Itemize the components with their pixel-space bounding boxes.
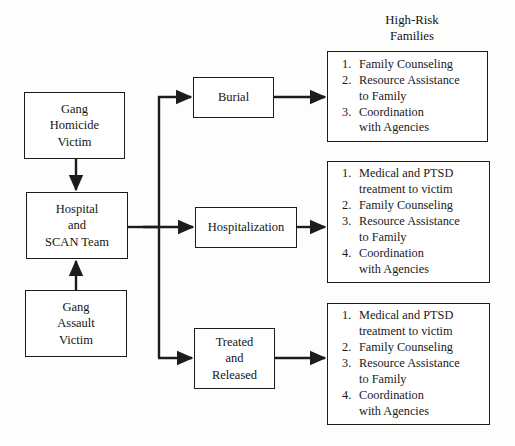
item-line-2: with Agencies (359, 120, 479, 136)
node-treated-and-released[interactable]: Treated and Released (194, 328, 275, 389)
node-line-1: Gang (25, 101, 124, 118)
item-text: Coordination with Agencies (359, 246, 481, 278)
item-number: 2. (342, 73, 359, 89)
item-text: Family Counseling (359, 198, 481, 214)
service-items: 1. Medical and PTSD treatment to victim … (342, 308, 481, 420)
caption-line-2: Families (352, 28, 472, 44)
node-line-3: Victim (25, 134, 124, 151)
item-number: 3. (342, 356, 359, 372)
node-label: Burial (194, 89, 273, 106)
flowchart-canvas: High-Risk Families Gang Homicide Victim … (0, 0, 515, 446)
node-hospital-and-scan-team[interactable]: Hospital and SCAN Team (26, 192, 128, 259)
item-text: Medical and PTSD treatment to victim (359, 166, 481, 198)
list-item: 3. Resource Assistance to Family (342, 214, 481, 246)
node-gang-homicide-victim[interactable]: Gang Homicide Victim (24, 92, 125, 159)
item-number: 1. (342, 166, 359, 182)
service-items: 1. Medical and PTSD treatment to victim … (342, 166, 481, 278)
node-line-2: and (195, 350, 274, 367)
item-text: Resource Assistance to Family (359, 73, 479, 105)
node-line-2: Homicide (25, 117, 124, 134)
node-burial[interactable]: Burial (193, 77, 274, 118)
high-risk-families-caption: High-Risk Families (352, 12, 472, 45)
item-line-2: with Agencies (359, 262, 481, 278)
item-number: 2. (342, 340, 359, 356)
item-line-1: Medical and PTSD (359, 166, 481, 182)
item-line-1: Family Counseling (359, 198, 481, 214)
item-number: 1. (342, 308, 359, 324)
item-text: Coordination with Agencies (359, 105, 479, 137)
item-line-2: to Family (359, 230, 481, 246)
service-items: 1. Family Counseling 2. Resource Assista… (342, 57, 479, 137)
item-text: Resource Assistance to Family (359, 356, 481, 388)
node-line-1: Treated (195, 334, 274, 351)
item-line-1: Family Counseling (359, 340, 481, 356)
item-line-2: treatment to victim (359, 324, 481, 340)
item-line-1: Medical and PTSD (359, 308, 481, 324)
item-line-2: to Family (359, 372, 481, 388)
item-line-2: treatment to victim (359, 182, 481, 198)
list-item: 2. Family Counseling (342, 340, 481, 356)
node-hospitalization[interactable]: Hospitalization (195, 207, 297, 248)
item-line-1: Family Counseling (359, 57, 479, 73)
item-line-1: Coordination (359, 388, 481, 404)
node-line-1: Hospital (27, 201, 127, 218)
list-item: 2. Family Counseling (342, 198, 481, 214)
item-line-1: Coordination (359, 246, 481, 262)
node-gang-assault-victim[interactable]: Gang Assault Victim (25, 290, 127, 357)
node-line-1: Burial (194, 89, 273, 106)
node-line-3: Released (195, 367, 274, 384)
item-number: 3. (342, 105, 359, 121)
list-item: 1. Medical and PTSD treatment to victim (342, 308, 481, 340)
list-item: 4. Coordination with Agencies (342, 246, 481, 278)
list-item: 4. Coordination with Agencies (342, 388, 481, 420)
caption-line-1: High-Risk (352, 12, 472, 28)
item-text: Coordination with Agencies (359, 388, 481, 420)
item-line-1: Resource Assistance (359, 356, 481, 372)
item-line-2: with Agencies (359, 404, 481, 420)
node-line-2: and (27, 217, 127, 234)
node-line-2: Assault (26, 315, 126, 332)
node-label: Hospitalization (196, 219, 296, 236)
node-line-1: Hospitalization (196, 219, 296, 236)
list-item: 3. Coordination with Agencies (342, 105, 479, 137)
node-line-1: Gang (26, 299, 126, 316)
item-number: 2. (342, 198, 359, 214)
service-list-treated-released[interactable]: 1. Medical and PTSD treatment to victim … (327, 303, 490, 425)
service-list-burial[interactable]: 1. Family Counseling 2. Resource Assista… (327, 51, 488, 142)
node-line-3: SCAN Team (27, 234, 127, 251)
item-line-2: to Family (359, 89, 479, 105)
node-line-3: Victim (26, 332, 126, 349)
item-text: Family Counseling (359, 57, 479, 73)
item-number: 3. (342, 214, 359, 230)
list-item: 2. Resource Assistance to Family (342, 73, 479, 105)
item-text: Resource Assistance to Family (359, 214, 481, 246)
list-item: 3. Resource Assistance to Family (342, 356, 481, 388)
item-number: 4. (342, 246, 359, 262)
node-label: Treated and Released (195, 334, 274, 384)
item-number: 4. (342, 388, 359, 404)
item-line-1: Resource Assistance (359, 214, 481, 230)
item-text: Family Counseling (359, 340, 481, 356)
item-line-1: Resource Assistance (359, 73, 479, 89)
item-text: Medical and PTSD treatment to victim (359, 308, 481, 340)
list-item: 1. Medical and PTSD treatment to victim (342, 166, 481, 198)
item-number: 1. (342, 57, 359, 73)
node-label: Hospital and SCAN Team (27, 201, 127, 251)
node-label: Gang Assault Victim (26, 299, 126, 349)
service-list-hospitalization[interactable]: 1. Medical and PTSD treatment to victim … (327, 161, 490, 283)
node-label: Gang Homicide Victim (25, 101, 124, 151)
item-line-1: Coordination (359, 105, 479, 121)
list-item: 1. Family Counseling (342, 57, 479, 73)
